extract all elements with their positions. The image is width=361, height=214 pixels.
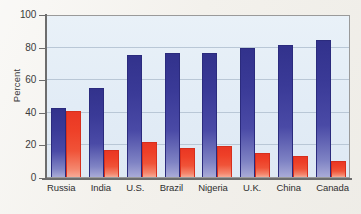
bar-group [316,16,346,177]
x-label-china: China [277,182,301,202]
bar-group [51,16,81,177]
bar-group [165,16,195,177]
bar-blue-series-brazil [165,53,180,177]
bar-red-series-uk [255,153,270,177]
bar-red-series-russia [66,111,81,177]
y-tick-label-100: 100 [6,10,36,20]
y-tick-0 [39,178,46,179]
x-axis-labels: RussiaIndiaU.S.BrazilNigeriaU.K.ChinaCan… [46,182,350,202]
bar-group [278,16,308,177]
bar-blue-series-india [89,88,104,177]
y-tick-100 [39,15,46,16]
bar-group [202,16,232,177]
bar-group [89,16,119,177]
bar-blue-series-us [127,55,142,177]
bar-red-series-us [142,142,157,177]
y-tick-40 [39,113,46,114]
x-axis-line [42,178,352,180]
bar-blue-series-uk [240,48,255,177]
bar-red-series-nigeria [217,146,232,177]
x-label-india: India [91,182,111,202]
bar-group [240,16,270,177]
y-tick-label-0: 0 [6,173,36,183]
bar-red-series-brazil [180,148,195,177]
y-axis-title: Percent [11,56,22,116]
bar-blue-series-russia [51,108,66,177]
bar-blue-series-nigeria [202,53,217,177]
bar-blue-series-china [278,45,293,177]
x-label-nigeria: Nigeria [198,182,227,202]
bar-red-series-canada [331,161,346,177]
bar-chart: Percent 020406080100 RussiaIndiaU.S.Braz… [0,0,361,214]
x-label-us: U.S. [126,182,144,202]
x-label-russia: Russia [47,182,75,202]
bar-red-series-india [104,150,119,177]
x-label-canada: Canada [316,182,349,202]
y-tick-label-80: 80 [6,43,36,53]
y-tick-label-60: 60 [6,75,36,85]
bar-groups [47,16,349,177]
plot-area [46,15,350,178]
y-tick-60 [39,80,46,81]
x-label-brazil: Brazil [160,182,183,202]
bar-group [127,16,157,177]
y-tick-label-40: 40 [6,108,36,118]
x-label-uk: U.K. [243,182,261,202]
y-tick-label-20: 20 [6,140,36,150]
bar-blue-series-canada [316,40,331,177]
y-tick-80 [39,48,46,49]
y-tick-20 [39,145,46,146]
bar-red-series-china [293,156,308,177]
y-axis-line [45,14,47,179]
